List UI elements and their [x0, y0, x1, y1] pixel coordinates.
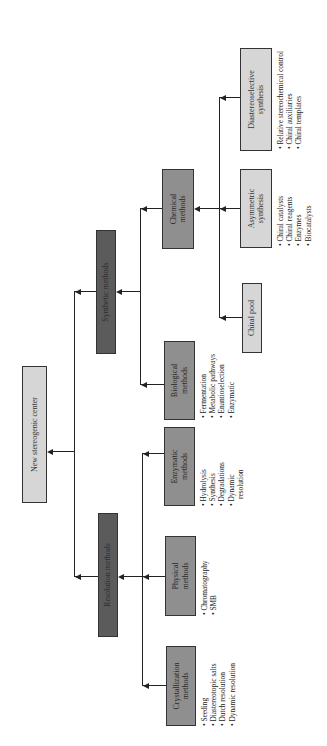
- bullet-item: Dynamic resolution: [228, 663, 237, 726]
- node-enzymatic-methods: Enzymatic methods: [164, 427, 195, 506]
- arrow-to-resolution-from-root: [75, 574, 81, 580]
- arrow-from-asymmetric: [220, 206, 226, 212]
- node-crystallization-methods: Crystallization methods: [166, 646, 196, 726]
- arrow-from-crystallization: [143, 683, 149, 689]
- arrow-from-chiral-pool: [220, 315, 226, 321]
- connector-resolution-bus: [142, 453, 143, 686]
- arrow-from-diastereoselective: [220, 95, 226, 101]
- bullet-item: Synthesis: [208, 462, 217, 506]
- bullet-item: Chiral catalysts: [276, 196, 285, 246]
- bullet-item: Dutch resolution: [218, 663, 227, 726]
- connector-resolution-stub: [124, 576, 142, 577]
- bullet-item-continuation: resolution: [236, 462, 245, 506]
- diastereoselective-synthesis-bullets: Relative stereochemical control Chiral a…: [276, 51, 304, 149]
- enzymatic-methods-bullets: Hydrolysis Synthesis Degradations Dynami…: [199, 462, 245, 506]
- node-label: Synthetic methods: [101, 262, 110, 321]
- connector-root-stub: [53, 451, 74, 452]
- node-asymmetric-synthesis: Asymmetric synthesis: [240, 169, 272, 248]
- crystallization-methods-bullets: Seeding Diastereotopic salts Dutch resol…: [200, 663, 237, 726]
- connector-synthetic-bus: [140, 208, 141, 385]
- node-diastereoselective-synthesis: Diastereoselective synthesis: [240, 48, 272, 151]
- bullet-item: Metabolic pathways: [208, 354, 217, 418]
- arrow-to-synthetic: [116, 289, 122, 295]
- physical-methods-bullets: Chromatography SMB: [200, 560, 218, 615]
- node-label: Resolution methods: [103, 543, 112, 607]
- node-label: Chiral pool: [247, 300, 256, 336]
- bullet-item: Degradations: [217, 462, 226, 506]
- node-resolution-methods: Resolution methods: [98, 513, 118, 637]
- bullet-item: Chiral reagents: [285, 196, 294, 246]
- arrow-to-root: [47, 449, 53, 455]
- connector-root-trunk: [74, 291, 75, 577]
- node-physical-methods: Physical methods: [165, 536, 196, 616]
- connector-synthetic-stub: [122, 291, 140, 292]
- node-label: Biological methods: [170, 356, 188, 405]
- bullet-item: Chiral auxiliaries: [285, 51, 294, 149]
- node-chemical-methods: Chemical methods: [162, 169, 194, 249]
- root-node-new-stereogenic-center: New stereogenic center: [22, 366, 47, 503]
- node-biological-methods: Biological methods: [164, 341, 195, 420]
- arrow-from-biological: [141, 382, 147, 388]
- node-label: Physical methods: [171, 553, 189, 599]
- asymmetric-synthesis-bullets: Chiral catalysts Chiral reagents Enzymes…: [276, 196, 313, 246]
- node-label: New stereogenic center: [30, 397, 39, 472]
- bullet-item: Fermentation: [199, 354, 208, 418]
- connector-chemical-stub: [200, 208, 219, 209]
- bullet-item: Dynamic: [227, 462, 236, 506]
- bullet-item: Enantioselection: [217, 354, 226, 418]
- arrow-to-chemical: [194, 206, 200, 212]
- bullet-item: Enzymes: [294, 196, 303, 246]
- node-label: Enzymatic methods: [170, 442, 188, 491]
- arrow-to-synthetic-from-root: [75, 289, 81, 295]
- node-synthetic-methods: Synthetic methods: [96, 230, 116, 354]
- arrow-from-chemical: [141, 206, 147, 212]
- bullet-item: Seeding: [200, 663, 209, 726]
- bullet-item: Chromatography: [200, 560, 209, 615]
- arrow-from-enzymatic: [143, 451, 149, 457]
- node-label: Chemical methods: [169, 184, 187, 234]
- biological-methods-bullets: Fermentation Metabolic pathways Enantios…: [199, 354, 236, 418]
- bullet-item: Relative stereochemical control: [276, 51, 285, 149]
- node-label: Asymmetric synthesis: [247, 180, 265, 237]
- bullet-item: Chiral templates: [294, 51, 303, 149]
- node-label: Crystallization methods: [172, 651, 190, 721]
- bullet-item: Hydrolysis: [199, 462, 208, 506]
- node-label: Diastereoselective synthesis: [247, 59, 265, 140]
- stereogenic-center-diagram: New stereogenic center Synthetic methods…: [0, 0, 327, 746]
- bullet-item: Enzymatic: [227, 354, 236, 418]
- bullet-item: SMB: [209, 560, 218, 615]
- node-chiral-pool: Chiral pool: [242, 283, 262, 353]
- bullet-item: Diastereotopic salts: [209, 663, 218, 726]
- arrow-from-physical: [143, 574, 149, 580]
- bullet-item: Biocatalysts: [304, 196, 313, 246]
- arrow-to-resolution: [118, 574, 124, 580]
